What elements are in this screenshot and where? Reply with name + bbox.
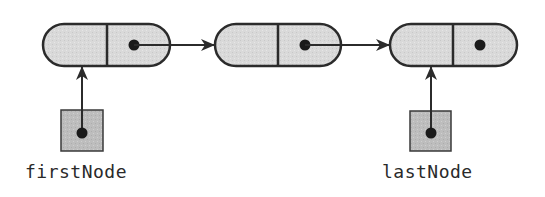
first-node-pointer-dot-icon: [77, 128, 88, 139]
last-node-pointer: [410, 67, 451, 151]
first-node-label: firstNode: [25, 161, 127, 182]
first-node-pointer: [61, 67, 103, 151]
node-3-null-dot-icon: [475, 40, 486, 51]
list-node-3: [390, 24, 517, 66]
last-node-label: lastNode: [382, 161, 473, 182]
last-node-pointer-dot-icon: [426, 128, 437, 139]
